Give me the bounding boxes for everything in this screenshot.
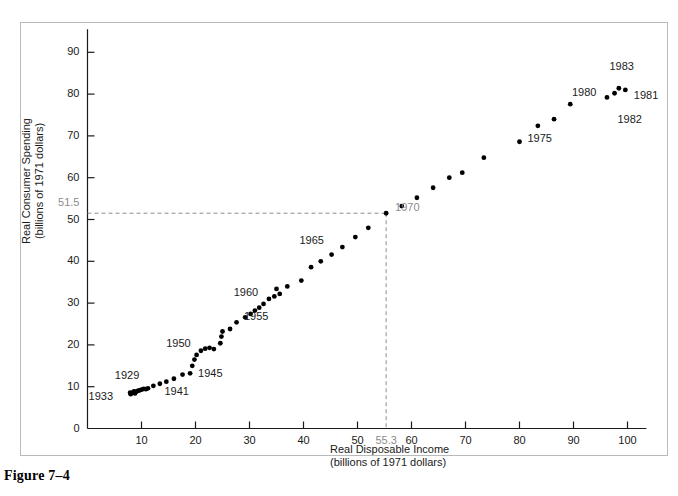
data-point [228, 327, 233, 332]
data-point [211, 347, 216, 352]
data-point [353, 235, 358, 240]
data-point [220, 329, 225, 334]
x-tick-label: 90 [554, 434, 594, 446]
data-point-label-1960: 1960 [234, 286, 258, 298]
data-point [192, 357, 197, 362]
data-point [616, 86, 621, 91]
y-tick-label: 10 [36, 380, 80, 392]
x-tick-label: 40 [284, 434, 324, 446]
y-tick-label: 80 [36, 87, 80, 99]
data-point [172, 376, 177, 381]
y-tick-label: 90 [36, 45, 80, 57]
x-tick-label: 80 [500, 434, 540, 446]
data-point [194, 353, 199, 358]
data-point-label-1933: 1933 [89, 390, 113, 402]
plot-canvas [0, 0, 678, 496]
x-tick-label: 30 [230, 434, 270, 446]
data-point-label-1945: 1945 [198, 367, 222, 379]
data-point [340, 245, 345, 250]
data-point [309, 265, 314, 270]
data-point [218, 341, 223, 346]
data-point [128, 390, 133, 395]
data-point [431, 185, 436, 190]
y-tick-label: 20 [36, 338, 80, 350]
data-point [261, 302, 266, 307]
data-point [366, 225, 371, 230]
data-point-label-1965: 1965 [300, 234, 324, 246]
data-point-label-1981: 1981 [634, 89, 658, 101]
data-point [447, 175, 452, 180]
data-point-label-1983: 1983 [609, 60, 633, 72]
data-point [272, 294, 277, 299]
x-tick-label: 20 [176, 434, 216, 446]
data-point [605, 95, 610, 100]
data-point-label-1941: 1941 [164, 385, 188, 397]
data-point [190, 363, 195, 368]
data-point-label-1975: 1975 [528, 132, 552, 144]
x-tick-label: 100 [608, 434, 648, 446]
data-point [552, 117, 557, 122]
x-axis-title: Real Disposable Income (billions of 1971… [330, 443, 530, 469]
data-point [199, 348, 204, 353]
data-point [299, 278, 304, 283]
data-point [277, 292, 282, 297]
figure-caption: Figure 7–4 [4, 468, 70, 484]
data-point [188, 371, 193, 376]
data-point-label-1929: 1929 [115, 369, 139, 381]
y-axis-title-line1: Real Consumer Spending [20, 106, 33, 256]
data-point [460, 170, 465, 175]
y-reference-value-label: 51.5 [36, 196, 80, 208]
data-point-label-1950: 1950 [166, 337, 190, 349]
data-point [568, 102, 573, 107]
data-points-group [128, 86, 628, 397]
x-axis-title-line2: (billions of 1971 dollars) [330, 456, 530, 469]
data-point [517, 139, 522, 144]
data-point [481, 155, 486, 160]
data-point [234, 320, 239, 325]
data-point-label-1970: 1970 [395, 201, 419, 213]
data-point [384, 211, 389, 216]
data-point-label-1982: 1982 [617, 113, 641, 125]
y-tick-label: 40 [36, 254, 80, 266]
x-tick-label: 70 [446, 434, 486, 446]
y-tick-label: 0 [36, 422, 80, 434]
data-point [146, 386, 151, 391]
data-point [318, 259, 323, 264]
data-point [180, 372, 185, 377]
data-point-label-1980: 1980 [572, 86, 596, 98]
scatter-plot: Real Consumer Spending (billions of 1971… [0, 0, 678, 496]
data-point [535, 123, 540, 128]
data-point [329, 252, 334, 257]
data-point [219, 334, 224, 339]
x-reference-value-label: 55.3 [366, 434, 406, 446]
data-point [157, 381, 162, 386]
y-tick-label: 50 [36, 213, 80, 225]
data-point [203, 346, 208, 351]
y-tick-label: 30 [36, 296, 80, 308]
data-point [267, 297, 272, 302]
data-point [274, 286, 279, 291]
x-tick-label: 10 [122, 434, 162, 446]
data-point [415, 195, 420, 200]
data-point [164, 379, 169, 384]
y-tick-label: 70 [36, 129, 80, 141]
data-point [151, 383, 156, 388]
data-point [623, 88, 628, 93]
data-point [207, 345, 212, 350]
data-point-label-1955: 1955 [244, 310, 268, 322]
data-point [612, 91, 617, 96]
data-point [285, 284, 290, 289]
y-tick-label: 60 [36, 171, 80, 183]
